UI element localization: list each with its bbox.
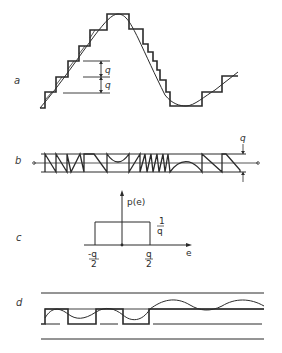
y-axis-label: p(e): [127, 197, 145, 207]
quantization-figure: a q q b q c: [0, 0, 282, 353]
panel-a: a q q: [14, 14, 238, 108]
panel-d-label: d: [16, 297, 23, 308]
height-label-numerator: 1: [159, 216, 165, 226]
panel-b-label: b: [15, 155, 21, 166]
x-axis-arrowhead: [186, 243, 192, 247]
height-label-denominator: q: [157, 226, 163, 236]
q-band-label: q: [240, 133, 246, 143]
y-axis-arrowhead: [120, 190, 124, 196]
panel-d: d: [16, 293, 264, 339]
quantized-square-wave: [41, 309, 264, 324]
left-tick-numerator: -q: [88, 249, 97, 259]
panel-a-label: a: [14, 75, 20, 86]
right-tick-denominator: 2: [146, 259, 152, 269]
left-tick-denominator: 2: [91, 259, 97, 269]
origin-dot: [121, 244, 124, 247]
q-label-upper: q: [105, 65, 111, 75]
panel-c: c p(e) e 1 q -q 2 q 2: [16, 190, 192, 269]
q-label-lower: q: [105, 80, 111, 90]
panel-b: b q: [15, 133, 259, 182]
right-tick-numerator: q: [146, 249, 152, 259]
step-diagonals: [45, 30, 95, 100]
panel-c-label: c: [16, 232, 22, 243]
x-axis-label: e: [186, 248, 192, 258]
